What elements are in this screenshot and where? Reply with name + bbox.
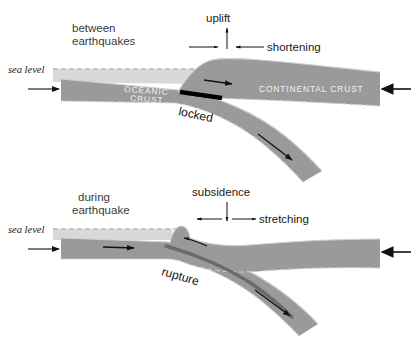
uplift-label: uplift: [206, 12, 231, 24]
panel-between-earthquakes: between earthquakes uplift shortening se…: [8, 12, 411, 182]
oceanic-crust-label-line2: CRUST: [130, 93, 164, 105]
subsidence-label: subsidence: [192, 186, 250, 198]
subduction-earthquake-cycle-figure: between earthquakes uplift shortening se…: [0, 0, 415, 352]
rupture-label: rupture: [160, 264, 201, 288]
continental-crust-label: CONTINENTAL CRUST: [259, 84, 364, 94]
phase-label-line2: earthquake: [72, 204, 130, 216]
continental-plate: [170, 226, 380, 272]
sea-level-label: sea level: [8, 64, 45, 75]
stretching-label: stretching: [259, 213, 309, 225]
panel-during-earthquake: during earthquake subsidence stretching …: [8, 186, 411, 336]
phase-label-line1: during: [78, 191, 110, 203]
phase-label-line1: between: [72, 22, 115, 34]
shortening-label: shortening: [267, 41, 321, 53]
sea-level-label: sea level: [8, 224, 45, 235]
phase-label-line2: earthquakes: [72, 35, 136, 47]
